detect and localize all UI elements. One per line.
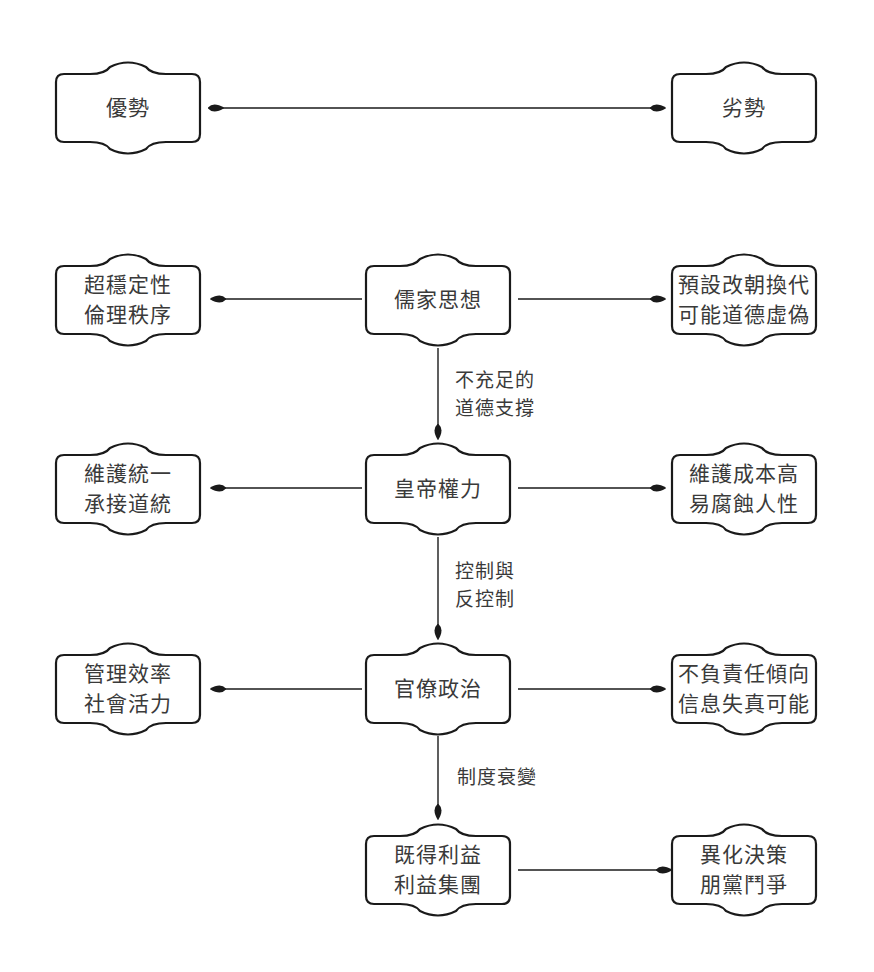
header-weaknesses-node: 劣勢: [666, 58, 822, 158]
edge-label-2: 控制與 反控制: [455, 557, 515, 613]
node-label: 優勢: [106, 93, 150, 123]
row4-center-node: 既得利益利益集團: [360, 820, 516, 920]
edge-label-line: 控制與: [455, 557, 515, 585]
row4-weakness-node: 異化決策朋黨鬥爭: [666, 820, 822, 920]
node-line: 社會活力: [84, 689, 172, 719]
row1-center-node: 儒家思想: [360, 250, 516, 350]
row1-strength-node: 超穩定性倫理秩序: [50, 250, 206, 350]
edge-label-1: 不充足的 道德支撐: [455, 366, 535, 422]
node-line: 易腐蝕人性: [689, 489, 799, 519]
node-line: 維護統一: [84, 459, 172, 489]
node-line: 倫理秩序: [84, 300, 172, 330]
node-line: 官僚政治: [394, 674, 482, 704]
row3-weakness-node: 不負責任傾向信息失真可能: [666, 639, 822, 739]
node-line: 朋黨鬥爭: [700, 870, 788, 900]
row3-center-node: 官僚政治: [360, 639, 516, 739]
node-line: 利益集團: [394, 870, 482, 900]
row2-weakness-node: 維護成本高易腐蝕人性: [666, 439, 822, 539]
edge-label-line: 反控制: [455, 585, 515, 613]
node-line: 皇帝權力: [394, 474, 482, 504]
node-line: 可能道德虛偽: [678, 300, 810, 330]
row3-strength-node: 管理效率社會活力: [50, 639, 206, 739]
node-line: 管理效率: [84, 659, 172, 689]
row1-weakness-node: 預設改朝換代可能道德虛偽: [666, 250, 822, 350]
node-line: 承接道統: [84, 489, 172, 519]
node-line: 儒家思想: [394, 285, 482, 315]
edge-label-line: 制度衰變: [457, 763, 537, 791]
node-line: 既得利益: [394, 840, 482, 870]
node-line: 超穩定性: [84, 270, 172, 300]
node-line: 維護成本高: [689, 459, 799, 489]
node-line: 預設改朝換代: [678, 270, 810, 300]
edge-label-3: 制度衰變: [457, 763, 537, 791]
node-line: 異化決策: [700, 840, 788, 870]
row2-strength-node: 維護統一承接道統: [50, 439, 206, 539]
row2-center-node: 皇帝權力: [360, 439, 516, 539]
node-line: 信息失真可能: [678, 689, 810, 719]
header-strengths-node: 優勢: [50, 58, 206, 158]
node-line: 不負責任傾向: [678, 659, 810, 689]
edge-label-line: 不充足的: [455, 366, 535, 394]
edge-label-line: 道德支撐: [455, 394, 535, 422]
node-label: 劣勢: [722, 93, 766, 123]
